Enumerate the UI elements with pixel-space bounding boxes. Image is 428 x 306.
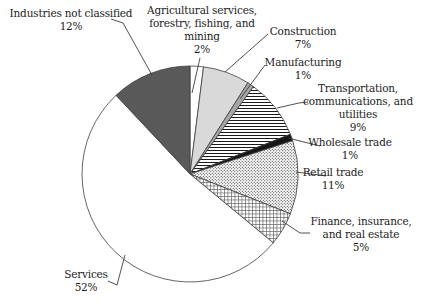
- slice-label-pct: 52%: [55, 281, 117, 294]
- slice-label-services: Services 52%: [55, 268, 117, 294]
- slice-label-pct: 2%: [144, 43, 260, 56]
- slice-label-agriculture: Agricultural services, forestry, fishing…: [144, 4, 260, 56]
- slice-label-manufacturing: Manufacturing 1%: [258, 56, 348, 82]
- slice-label-wholesale: Wholesale trade 1%: [300, 136, 400, 162]
- slice-label-construction: Construction 7%: [258, 25, 348, 51]
- slice-label-text: Industries not classified: [0, 7, 142, 20]
- slice-label-text: Wholesale trade: [300, 136, 400, 149]
- pie-chart-figure: Industries not classified 12% Agricultur…: [0, 0, 428, 306]
- slice-label-text: Agricultural services, forestry, fishing…: [144, 4, 260, 43]
- pie-slices: [82, 66, 298, 282]
- slice-label-pct: 1%: [258, 69, 348, 82]
- slice-label-text: Construction: [258, 25, 348, 38]
- slice-label-text: Retail trade: [289, 166, 377, 179]
- slice-label-pct: 1%: [300, 149, 400, 162]
- slice-label-pct: 12%: [0, 20, 142, 33]
- slice-label-finance: Finance, insurance, and real estate 5%: [304, 215, 418, 254]
- slice-label-text: Transportation, communications, and util…: [297, 82, 419, 121]
- slice-label-pct: 9%: [297, 121, 419, 134]
- slice-label-not-classified: Industries not classified 12%: [0, 7, 142, 33]
- slice-label-pct: 11%: [289, 179, 377, 192]
- slice-label-transportation: Transportation, communications, and util…: [297, 82, 419, 134]
- slice-label-retail: Retail trade 11%: [289, 166, 377, 192]
- slice-label-pct: 7%: [258, 38, 348, 51]
- slice-label-text: Services: [55, 268, 117, 281]
- slice-label-pct: 5%: [304, 241, 418, 254]
- slice-label-text: Manufacturing: [258, 56, 348, 69]
- slice-label-text: Finance, insurance, and real estate: [304, 215, 418, 241]
